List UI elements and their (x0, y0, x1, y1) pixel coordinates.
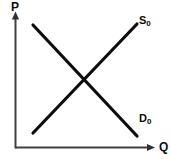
quantity-axis-label: Q (159, 141, 168, 153)
price-axis-label: P (11, 1, 19, 13)
supply-curve-label-subscript: 0 (146, 19, 150, 28)
demand-curve-label-subscript: 0 (147, 117, 151, 126)
supply-curve-label: S0 (139, 15, 151, 26)
quantity-axis-arrowhead (147, 144, 155, 151)
demand-curve-label-letter: D (139, 112, 147, 124)
supply-demand-figure: P Q S0 D0 (0, 0, 171, 159)
demand-curve-label: D0 (139, 113, 151, 124)
